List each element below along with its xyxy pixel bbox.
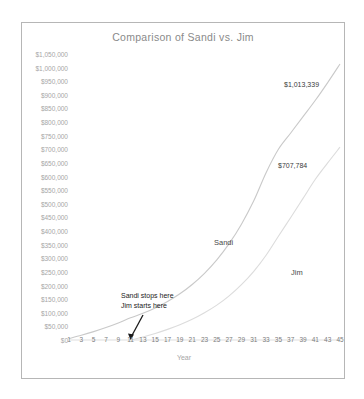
line-series-jim xyxy=(131,147,340,340)
x-axis-tick: 5 xyxy=(92,336,96,343)
x-axis-tick-labels: 1357911131517192123252729313335373941434… xyxy=(22,336,346,350)
x-axis-tick: 7 xyxy=(104,336,108,343)
x-axis-tick: 11 xyxy=(127,336,134,343)
x-axis-tick: 35 xyxy=(275,336,282,343)
x-axis-tick: 25 xyxy=(213,336,220,343)
annotation-line-2: Jim starts here xyxy=(121,301,174,311)
x-axis-title: Year xyxy=(22,354,346,361)
x-axis-tick: 37 xyxy=(287,336,294,343)
annotation-sandi-stops-jim-starts: Sandi stops here Jim starts here xyxy=(121,291,174,311)
x-axis-tick: 41 xyxy=(312,336,319,343)
x-axis-tick: 15 xyxy=(152,336,159,343)
x-axis-tick: 3 xyxy=(80,336,84,343)
x-axis-tick: 1 xyxy=(67,336,71,343)
annotation-line-1: Sandi stops here xyxy=(121,291,174,301)
x-axis-tick: 43 xyxy=(324,336,331,343)
series-label-sandi: Sandi xyxy=(214,238,233,247)
x-axis-tick: 17 xyxy=(164,336,171,343)
x-axis-tick: 19 xyxy=(176,336,183,343)
x-axis-tick: 9 xyxy=(116,336,120,343)
data-label-sandi-end: $1,013,339 xyxy=(284,81,319,88)
x-axis-tick: 27 xyxy=(226,336,233,343)
x-axis-tick: 23 xyxy=(201,336,208,343)
line-series-sandi xyxy=(69,64,340,339)
x-axis-tick: 29 xyxy=(238,336,245,343)
data-label-jim-end: $707,784 xyxy=(278,162,307,169)
plot-area xyxy=(22,23,346,380)
x-axis-tick: 31 xyxy=(250,336,257,343)
chart-container: Comparison of Sandi vs. Jim $1,050,000$1… xyxy=(21,22,345,379)
series-label-jim: Jim xyxy=(291,268,303,277)
x-axis-tick: 45 xyxy=(336,336,343,343)
x-axis-tick: 33 xyxy=(262,336,269,343)
x-axis-tick: 13 xyxy=(139,336,146,343)
x-axis-tick: 39 xyxy=(299,336,306,343)
x-axis-tick: 21 xyxy=(189,336,196,343)
